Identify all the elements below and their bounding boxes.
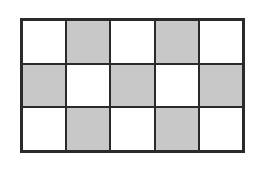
- grid-cell-r1-c3-white: [110, 20, 154, 64]
- grid-cell-r2-c1-shaded: [22, 64, 66, 108]
- grid-cell-r3-c1-white: [22, 107, 66, 151]
- grid-cell-r2-c5-shaded: [199, 64, 243, 108]
- grid-cell-r3-c4-shaded: [155, 107, 199, 151]
- grid-cell-r1-c4-shaded: [155, 20, 199, 64]
- grid-cell-r2-c2-white: [66, 64, 110, 108]
- grid-cell-r1-c2-shaded: [66, 20, 110, 64]
- grid-cell-r3-c2-shaded: [66, 107, 110, 151]
- grid-cell-r2-c3-shaded: [110, 64, 154, 108]
- grid-cell-r1-c1-white: [22, 20, 66, 64]
- checker-grid: [20, 18, 245, 153]
- grid-cell-r1-c5-white: [199, 20, 243, 64]
- grid-cell-r3-c5-white: [199, 107, 243, 151]
- grid-cell-r3-c3-white: [110, 107, 154, 151]
- grid-cell-r2-c4-white: [155, 64, 199, 108]
